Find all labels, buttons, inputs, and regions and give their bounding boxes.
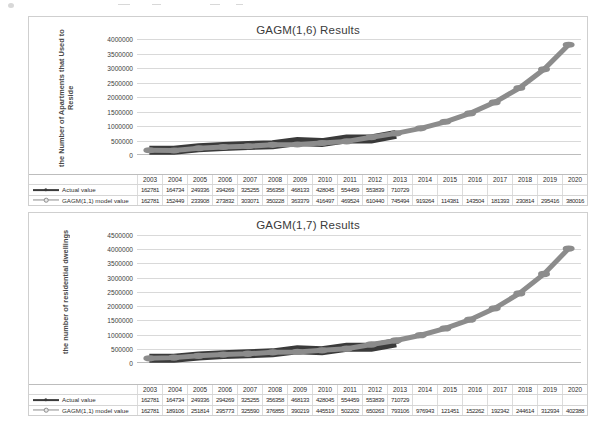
x-axis-year-cell: 2020 <box>562 385 587 394</box>
data-cell: 325255 <box>237 185 262 194</box>
data-cell: 468133 <box>287 185 312 194</box>
data-cell: 121451 <box>437 406 462 415</box>
x-axis-year-cell: 2006 <box>212 385 237 394</box>
x-axis-year-cell: 2012 <box>362 385 387 394</box>
data-point-marker <box>565 44 573 46</box>
data-cell: 249336 <box>187 185 212 194</box>
y-axis-tick: 2000000 <box>107 94 133 101</box>
x-axis-year-cell: 2014 <box>412 175 437 184</box>
data-cell: 793106 <box>387 406 412 415</box>
data-point-marker <box>244 145 252 147</box>
data-cell: 650263 <box>362 406 387 415</box>
table-row-actual: Actual value 162781164734249336294269325… <box>29 184 587 194</box>
data-point-marker <box>540 273 548 275</box>
y-axis-tick: 4000000 <box>107 36 133 43</box>
data-cell: 976943 <box>412 406 437 415</box>
y-axis-tick: 500000 <box>111 137 133 144</box>
data-point-marker <box>244 353 252 355</box>
data-point-marker <box>269 351 277 353</box>
data-cell <box>412 185 437 194</box>
data-cell: 192342 <box>487 406 512 415</box>
data-cell: 295416 <box>537 196 562 205</box>
data-cell: 380016 <box>562 196 587 205</box>
data-cell: 294269 <box>212 395 237 404</box>
x-axis-year-cell: 2014 <box>412 385 437 394</box>
data-point-marker <box>219 353 227 355</box>
data-cell: 325590 <box>237 406 262 415</box>
data-cell <box>487 395 512 404</box>
data-cell: 356358 <box>262 185 287 194</box>
x-axis-year-cell: 2015 <box>437 385 462 394</box>
data-cell: 553839 <box>362 395 387 404</box>
data-point-marker <box>318 142 326 144</box>
data-cell: 325255 <box>237 395 262 404</box>
x-axis-year-cell: 2013 <box>387 385 412 394</box>
table-row-model: GAGM(1,1) model value 162781189106251814… <box>29 405 587 415</box>
x-axis-year-cell: 2018 <box>512 385 537 394</box>
y-axis-tick: 1500000 <box>107 108 133 115</box>
y-axis-tick: 2500000 <box>107 288 133 295</box>
legend-actual-value: Actual value <box>29 185 137 194</box>
data-point-marker <box>491 307 499 309</box>
data-cell: 710729 <box>387 185 412 194</box>
data-cell: 162781 <box>137 196 162 205</box>
data-cell: 350228 <box>262 196 287 205</box>
x-axis-year-cell: 2003 <box>137 175 162 184</box>
scan-artifact <box>118 4 130 5</box>
data-point-marker <box>195 147 203 149</box>
data-cell: 249336 <box>187 395 212 404</box>
x-axis-year-cell: 2009 <box>287 175 312 184</box>
data-cell: 152262 <box>462 406 487 415</box>
x-axis-year-cell: 2004 <box>162 385 187 394</box>
data-point-marker <box>417 334 425 336</box>
data-cell: 553839 <box>362 185 387 194</box>
header-legend-spacer <box>29 385 137 394</box>
data-cell: 428045 <box>312 185 337 194</box>
table-row-actual: Actual value 162781164734249336294269325… <box>29 394 587 404</box>
legend-label: Actual value <box>62 396 96 403</box>
series-lines <box>137 39 581 155</box>
x-axis-year-cell: 2006 <box>212 175 237 184</box>
legend-model-value: GAGM(1,1) model value <box>29 196 137 205</box>
x-axis-year-cell: 2019 <box>537 385 562 394</box>
data-cell: 468133 <box>287 395 312 404</box>
line-marker-icon <box>33 187 59 193</box>
data-cell: 162781 <box>137 185 162 194</box>
y-axis-tick: 3000000 <box>107 65 133 72</box>
x-axis-year-cell: 2003 <box>137 385 162 394</box>
data-point-marker <box>417 127 425 129</box>
data-cell <box>437 395 462 404</box>
data-cell: 502202 <box>337 406 362 415</box>
data-point-marker <box>343 348 351 350</box>
data-cell: 295773 <box>212 406 237 415</box>
x-axis-year-cell: 2005 <box>187 385 212 394</box>
data-point-marker <box>195 355 203 357</box>
x-axis-year-cell: 2013 <box>387 175 412 184</box>
header-cells: 2003200420052006200720082009201020112012… <box>137 175 587 184</box>
data-point-marker <box>269 144 277 146</box>
data-point-marker <box>170 356 178 358</box>
x-axis-year-cell: 2009 <box>287 385 312 394</box>
line-model-value <box>149 249 568 359</box>
data-cell <box>437 185 462 194</box>
x-axis-year-cell: 2011 <box>337 385 362 394</box>
row-cells-model: 1627811524492339082738323030713502283633… <box>137 196 587 205</box>
y-axis-tick: 500000 <box>111 345 133 352</box>
table-header-row: 2003200420052006200720082009201020112012… <box>29 384 587 394</box>
row-cells-actual: 1627811647342493362942693252553563584681… <box>137 395 587 404</box>
data-point-marker <box>145 357 153 359</box>
chart-title: GAGM(1,6) Results <box>29 24 587 36</box>
y-axis-tick: 4500000 <box>107 232 133 239</box>
data-cell: 143504 <box>462 196 487 205</box>
y-axis-tick: 1000000 <box>107 331 133 338</box>
x-axis-year-cell: 2016 <box>462 175 487 184</box>
x-axis-year-cell: 2019 <box>537 175 562 184</box>
header-cells: 2003200420052006200720082009201020112012… <box>137 385 587 394</box>
data-cell: 356358 <box>262 395 287 404</box>
y-axis-label: the Number of Apartments that Used to Re… <box>57 23 83 173</box>
x-axis-year-cell: 2004 <box>162 175 187 184</box>
plot-area-gagm16: 0500000100000015000002000000250000030000… <box>137 39 581 155</box>
plot-area-gagm17: 0500000100000015000002000000250000030000… <box>137 235 581 363</box>
x-axis-year-cell: 2020 <box>562 175 587 184</box>
x-axis-year-cell: 2012 <box>362 175 387 184</box>
